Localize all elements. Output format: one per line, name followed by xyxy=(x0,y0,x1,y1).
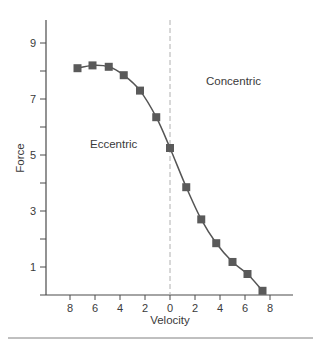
square-marker xyxy=(105,63,113,71)
square-marker xyxy=(152,113,160,121)
axes xyxy=(40,20,293,295)
y-tick-label: 7 xyxy=(30,93,36,105)
y-axis-title: Force xyxy=(14,143,26,172)
x-tick-label: 2 xyxy=(192,302,198,314)
x-tick-label: 4 xyxy=(117,302,123,314)
x-tick-label: 8 xyxy=(267,302,273,314)
concentric-region-label: Concentric xyxy=(206,75,261,87)
square-marker xyxy=(89,61,97,69)
square-marker xyxy=(136,87,144,95)
y-tick-label: 5 xyxy=(30,149,36,161)
square-marker xyxy=(120,71,128,79)
x-axis-title: Velocity xyxy=(150,314,190,326)
square-marker xyxy=(229,258,237,266)
x-tick-label: 6 xyxy=(92,302,98,314)
y-tick-label: 9 xyxy=(30,37,36,49)
y-tick-label: 3 xyxy=(30,205,36,217)
square-marker xyxy=(74,64,82,72)
square-marker xyxy=(197,215,205,223)
square-marker xyxy=(166,144,174,152)
square-marker xyxy=(244,270,252,278)
x-tick-label: 4 xyxy=(217,302,223,314)
x-tick-label: 0 xyxy=(167,302,173,314)
eccentric-region-label: Eccentric xyxy=(90,138,138,150)
x-tick-label: 8 xyxy=(67,302,73,314)
x-axis-ticks: 864202468 xyxy=(67,295,273,314)
force-velocity-chart: 864202468 13579 Velocity Force Eccentric… xyxy=(0,0,314,343)
x-tick-label: 2 xyxy=(142,302,148,314)
square-marker xyxy=(259,287,267,295)
square-marker xyxy=(212,239,220,247)
y-tick-label: 1 xyxy=(30,261,36,273)
x-tick-label: 6 xyxy=(242,302,248,314)
y-axis-ticks: 13579 xyxy=(30,37,46,273)
square-marker xyxy=(182,183,190,191)
